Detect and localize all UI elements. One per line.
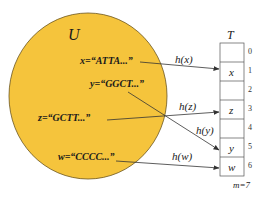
- key-w-label: w=“CCCC...”: [58, 151, 115, 162]
- slot-index-3: 3: [248, 104, 252, 113]
- key-y-label: y=“GGCT...”: [89, 78, 144, 89]
- hash-label-w: h(w): [172, 150, 193, 163]
- slot-content-1: x: [228, 66, 234, 78]
- key-z-label: z=“GCTT...”: [37, 112, 90, 123]
- universe-label: U: [68, 26, 81, 43]
- slot-index-0: 0: [248, 47, 252, 56]
- slot-content-3: z: [228, 104, 234, 116]
- slot-index-2: 2: [248, 85, 252, 94]
- hash-table: x z y w: [220, 43, 244, 176]
- table-label: T: [227, 28, 235, 42]
- slot-index-6: 6: [248, 161, 252, 170]
- hash-label-x: h(x): [175, 53, 193, 66]
- slot-content-5: y: [228, 142, 234, 154]
- key-x-label: x=“ATTA...”: [79, 55, 133, 66]
- slot-index-4: 4: [248, 123, 252, 132]
- hash-label-y: h(y): [196, 124, 214, 137]
- slot-index-1: 1: [248, 66, 252, 75]
- table-size-label: m=7: [233, 180, 251, 190]
- slot-content-6: w: [228, 161, 236, 173]
- hash-diagram: U x=“ATTA...” y=“GGCT...” z=“GCTT...” w=…: [0, 0, 266, 197]
- hash-label-z: h(z): [179, 100, 196, 113]
- slot-index-5: 5: [248, 142, 252, 151]
